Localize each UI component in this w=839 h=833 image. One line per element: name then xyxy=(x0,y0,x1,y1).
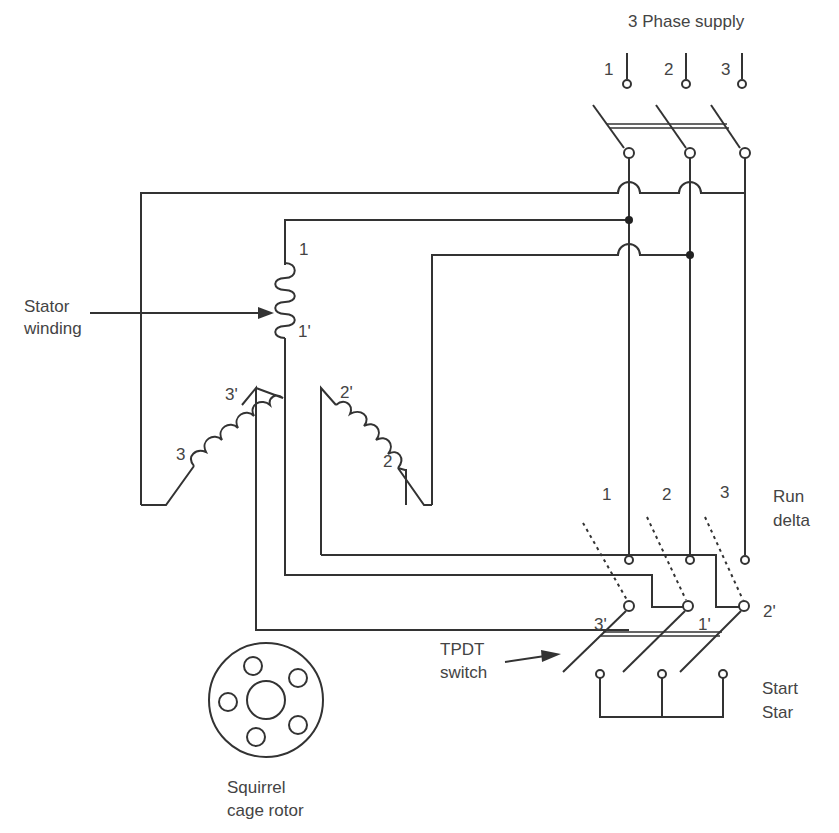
svg-text:1': 1' xyxy=(298,322,311,341)
svg-text:TPDT: TPDT xyxy=(440,640,484,659)
svg-text:winding: winding xyxy=(23,319,82,338)
svg-text:2': 2' xyxy=(763,602,776,621)
svg-text:delta: delta xyxy=(773,511,810,530)
svg-text:3: 3 xyxy=(720,483,729,502)
svg-text:Run: Run xyxy=(773,487,804,506)
svg-text:3': 3' xyxy=(225,385,238,404)
svg-text:1': 1' xyxy=(698,615,711,634)
squirrel-cage-rotor-icon: Squirrel cage rotor xyxy=(209,643,323,820)
star-delta-starter-diagram: 3 Phase supply 1 2 3 1 xyxy=(0,0,839,833)
svg-text:Squirrel: Squirrel xyxy=(227,778,286,797)
svg-text:switch: switch xyxy=(440,663,487,682)
svg-text:cage rotor: cage rotor xyxy=(227,801,304,820)
svg-text:3: 3 xyxy=(176,445,185,464)
svg-text:1: 1 xyxy=(299,240,308,259)
stator-coil-3: 3 3' xyxy=(141,385,629,630)
svg-text:1: 1 xyxy=(602,485,611,504)
svg-text:2': 2' xyxy=(340,383,353,402)
junction-dot xyxy=(686,251,694,259)
svg-text:1: 1 xyxy=(604,60,613,79)
svg-text:Stator: Stator xyxy=(24,297,70,316)
tpdt-label: TPDT switch xyxy=(440,640,561,682)
wire-coil1-start xyxy=(285,220,629,263)
svg-text:3: 3 xyxy=(721,60,730,79)
svg-text:2: 2 xyxy=(664,60,673,79)
tpdt-switch: 3' 1' 2' xyxy=(563,601,776,672)
wire-3-outer xyxy=(141,182,745,505)
svg-text:2: 2 xyxy=(662,485,671,504)
switch-throw-dotted xyxy=(583,517,743,600)
junction-dot xyxy=(625,216,633,224)
supply-title: 3 Phase supply xyxy=(628,12,745,31)
stator-coil-1: 1 1' xyxy=(275,240,686,607)
stator-coil-2: 2' 2 xyxy=(321,383,741,607)
svg-text:Star: Star xyxy=(762,703,794,722)
svg-text:Start: Start xyxy=(762,679,798,698)
svg-text:2: 2 xyxy=(383,452,392,471)
supply-terminals: 1 2 3 xyxy=(604,53,746,88)
run-delta-terminals: 1 2 3 Run delta xyxy=(602,483,810,564)
star-point: Start Star xyxy=(596,670,798,722)
wire-coil2-start xyxy=(432,244,690,505)
main-switch xyxy=(593,105,750,158)
stator-label: Stator winding xyxy=(23,297,274,338)
